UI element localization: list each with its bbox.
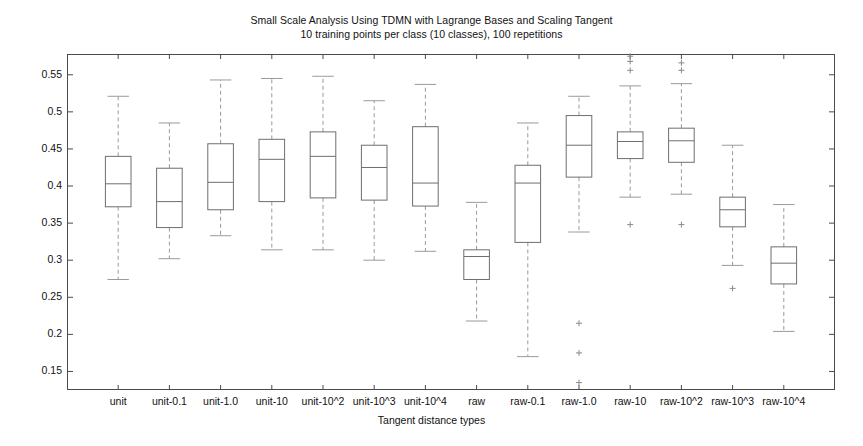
x-tick-label: raw-10 — [614, 395, 646, 407]
x-tick-label: unit — [110, 395, 127, 407]
x-tick-label: raw-10^4 — [762, 395, 805, 407]
x-tick-label: raw-0.1 — [510, 395, 545, 407]
chart-root: Small Scale Analysis Using TDMN with Lag… — [0, 0, 863, 446]
x-tick-label: unit-10 — [256, 395, 288, 407]
x-tick-label: raw-1.0 — [561, 395, 596, 407]
x-axis-title: Tangent distance types — [0, 414, 863, 426]
x-tick-label: raw-10^2 — [660, 395, 703, 407]
x-tick-label: raw-10^3 — [711, 395, 754, 407]
x-tick-label: raw — [468, 395, 485, 407]
x-tick-label: unit-10^3 — [353, 395, 396, 407]
x-tick-label: unit-1.0 — [203, 395, 238, 407]
x-tick-label: unit-0.1 — [152, 395, 187, 407]
x-tick-label: unit-10^2 — [302, 395, 345, 407]
x-axis-tick-labels: Tangent distance types unitunit-0.1unit-… — [0, 0, 863, 446]
x-tick-label: unit-10^4 — [404, 395, 447, 407]
